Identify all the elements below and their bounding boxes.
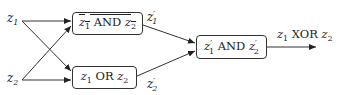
and-gate-node: z′1 AND z′2: [196, 35, 267, 59]
intermediate-z2-prime-label: z′2: [147, 77, 157, 93]
or-expression: z1 OR z2: [81, 69, 129, 85]
and-expression: z′1 AND z′2: [204, 38, 259, 55]
edge-z2-nand: [22, 26, 71, 80]
input-z1-label: z1: [7, 12, 18, 27]
edges-layer: [0, 0, 341, 95]
nand-gate-node: z1 AND z2: [72, 12, 143, 35]
output-xor-label: z1 XOR z2: [277, 27, 333, 43]
intermediate-z1-prime-label: z′1: [147, 10, 157, 26]
input-z2-label: z2: [7, 72, 18, 87]
edge-or-and: [137, 51, 195, 76]
or-gate-node: z1 OR z2: [72, 66, 137, 89]
edge-z1-or: [22, 21, 71, 71]
nand-expression: z1 AND z2: [79, 15, 136, 31]
edge-nand-and: [143, 25, 195, 43]
